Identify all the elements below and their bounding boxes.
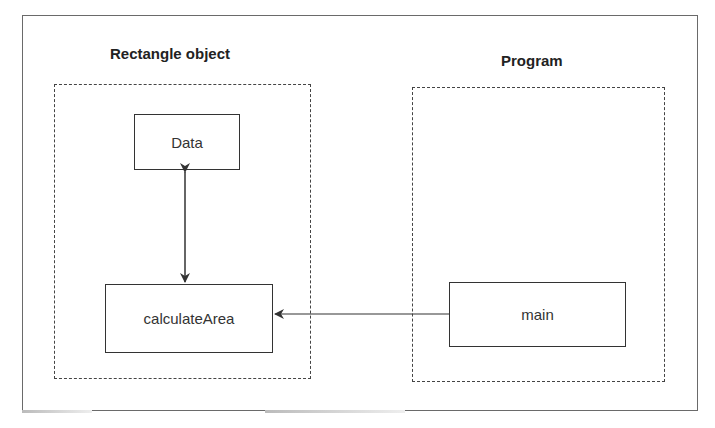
connector-arrows [0,0,715,428]
scan-shadow-right [265,410,405,413]
scan-shadow-left [22,410,92,413]
